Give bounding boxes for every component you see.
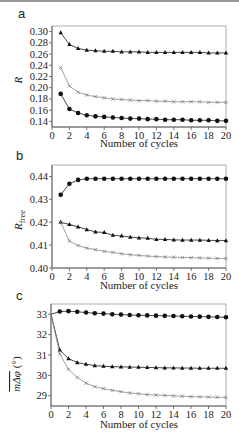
circle-marker	[128, 176, 133, 181]
x-tick-label: 16	[186, 271, 197, 282]
circle-marker	[67, 181, 72, 186]
series-line-triangle	[61, 33, 226, 53]
circle-marker	[85, 113, 90, 118]
panel-a-axes: 024681012141618200.140.160.180.200.220.2…	[30, 26, 232, 141]
x-tick-label: 18	[203, 271, 214, 282]
cross-marker	[59, 66, 62, 69]
circle-marker	[119, 176, 124, 181]
panel-c-ylabel: mΔφ(°)	[10, 356, 23, 392]
circle-marker	[128, 116, 133, 121]
circle-marker	[189, 118, 194, 123]
panel-c-xlabel: Number of cycles	[100, 418, 178, 430]
circle-marker	[224, 119, 229, 124]
circle-marker	[119, 312, 124, 317]
y-tick-label: 30	[37, 370, 48, 381]
circle-marker	[58, 92, 63, 97]
circle-marker	[76, 178, 81, 183]
circle-marker	[198, 118, 203, 123]
y-tick-label: 0.26	[30, 49, 48, 60]
panel-b-ylabel-sub: free	[17, 210, 27, 223]
circle-marker	[215, 119, 220, 124]
circle-marker	[111, 115, 116, 120]
series-line-triangle	[61, 222, 226, 240]
y-tick-label: 0.41	[30, 240, 48, 251]
circle-marker	[189, 176, 194, 181]
series-line-cross	[61, 68, 226, 103]
y-tick-label: 0.24	[30, 60, 49, 71]
circle-marker	[224, 315, 229, 320]
panel-b-ylabel: Rfree	[12, 210, 27, 231]
y-tick-label: 0.16	[30, 105, 48, 116]
panel-b-plot	[58, 176, 228, 260]
panel-c: c mΔφ(°) 024681012141618202930313233 Num…	[10, 288, 231, 430]
x-tick-label: 20	[221, 271, 232, 282]
plot-frame	[51, 304, 226, 406]
circle-marker	[127, 313, 132, 318]
y-tick-label: 0.22	[30, 71, 48, 82]
panel-b: b Rfree 024681012141618200.400.410.420.4…	[12, 148, 231, 291]
y-tick-label: 0.44	[30, 171, 49, 182]
circle-marker	[93, 114, 98, 119]
panel-c-plot	[51, 309, 228, 399]
x-tick-label: 4	[84, 271, 90, 282]
x-tick-label: 0	[49, 130, 54, 141]
x-tick-label: 20	[221, 409, 232, 420]
panel-c-axes: 024681012141618202930313233	[37, 304, 232, 420]
circle-marker	[189, 314, 194, 319]
x-tick-label: 4	[83, 409, 89, 420]
circle-marker	[172, 176, 177, 181]
circle-marker	[93, 176, 98, 181]
circle-marker	[163, 117, 168, 122]
circle-marker	[58, 192, 63, 197]
circle-marker	[154, 176, 159, 181]
y-tick-label: 0.40	[30, 263, 48, 274]
y-tick-label: 0.20	[30, 82, 48, 93]
circle-marker	[198, 176, 203, 181]
circle-marker	[171, 314, 176, 319]
series-line-circle	[61, 179, 226, 195]
panel-a-label: a	[18, 6, 26, 21]
circle-marker	[137, 176, 142, 181]
panel-a-xlabel: Number of cycles	[100, 137, 178, 149]
circle-marker	[180, 314, 185, 319]
x-tick-label: 18	[203, 130, 214, 141]
x-tick-label: 18	[203, 409, 214, 420]
circle-marker	[145, 176, 150, 181]
circle-marker	[85, 176, 90, 181]
x-tick-label: 16	[186, 409, 197, 420]
panel-a-ylabel: R	[12, 76, 24, 84]
circle-marker	[110, 312, 115, 317]
y-tick-label: 0.28	[30, 37, 48, 48]
y-tick-label: 0.42	[30, 217, 48, 228]
circle-marker	[180, 176, 185, 181]
x-tick-label: 2	[67, 271, 72, 282]
circle-marker	[102, 176, 107, 181]
circle-marker	[172, 117, 177, 122]
circle-marker	[67, 107, 72, 112]
circle-marker	[57, 309, 62, 314]
x-tick-label: 0	[48, 409, 53, 420]
panel-a: a R 024681012141618200.140.160.180.200.2…	[12, 6, 231, 149]
cross-marker	[76, 376, 79, 379]
panel-c-ylabel-main: mΔφ	[10, 371, 22, 392]
y-tick-label: 29	[37, 390, 48, 401]
y-tick-label: 33	[37, 309, 48, 320]
circle-marker	[136, 313, 141, 318]
x-tick-label: 2	[66, 409, 71, 420]
panel-b-label: b	[16, 148, 23, 163]
x-tick-label: 16	[186, 130, 197, 141]
circle-marker	[119, 116, 124, 121]
circle-marker	[162, 314, 167, 319]
circle-marker	[154, 313, 159, 318]
circle-marker	[206, 315, 211, 320]
circle-marker	[76, 111, 81, 116]
circle-marker	[102, 115, 107, 120]
x-tick-label: 2	[67, 130, 72, 141]
series-line-cross	[51, 314, 226, 397]
figure: a R 024681012141618200.140.160.180.200.2…	[0, 0, 239, 440]
y-tick-label: 32	[37, 329, 48, 340]
x-tick-label: 20	[221, 130, 232, 141]
circle-marker	[92, 311, 97, 316]
triangle-marker	[59, 30, 63, 34]
panel-a-plot	[58, 30, 228, 123]
